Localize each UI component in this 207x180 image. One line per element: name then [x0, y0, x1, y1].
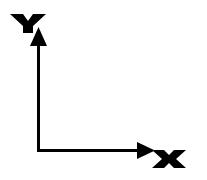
y-axis	[30, 27, 47, 151]
x-axis	[37, 142, 155, 159]
y-axis-label: Y	[0, 0, 46, 33]
x-axis-arrowhead-icon	[137, 142, 155, 159]
x-label-glyph	[152, 150, 186, 168]
axes-diagram: Y X	[0, 0, 207, 180]
y-label-glyph	[10, 14, 46, 33]
